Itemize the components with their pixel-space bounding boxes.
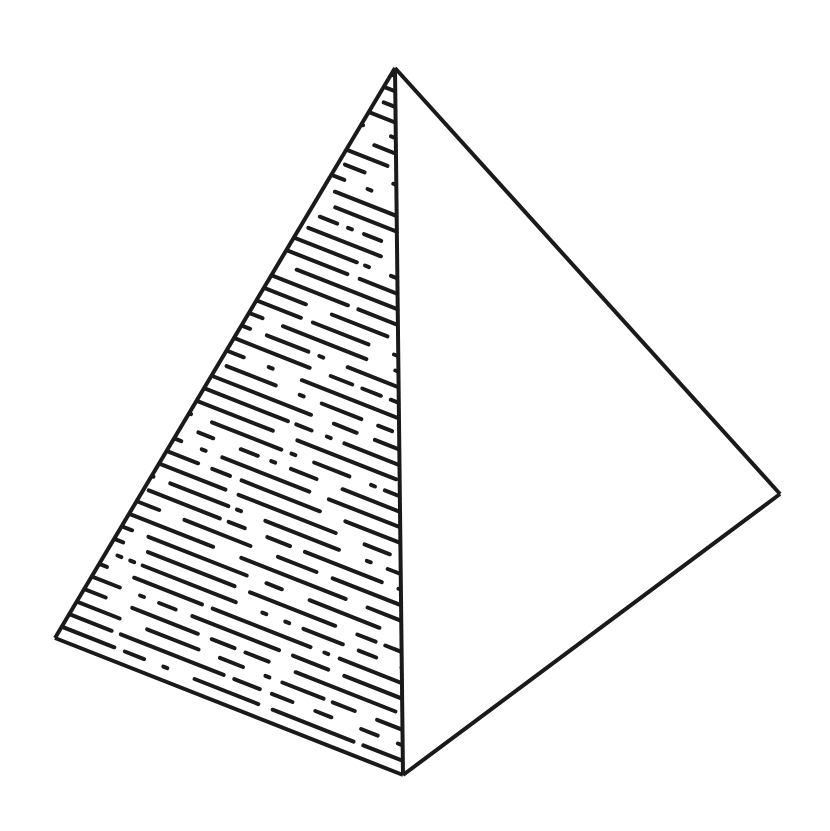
pyramid-diagram (0, 0, 830, 831)
hatch-dash (132, 608, 198, 634)
hatch-dash (223, 101, 248, 111)
hatch-dash (273, 44, 348, 74)
hatch-dash (405, 483, 426, 491)
hatch-dash (397, 170, 467, 197)
hatch-dash (267, 242, 348, 274)
hatch-dash (105, 396, 172, 422)
hatch-dash (132, 251, 221, 286)
hatch-dash (348, 228, 352, 230)
hatch-dash (368, 189, 372, 191)
hatch-dash (278, 557, 317, 572)
hatch-dash (89, 188, 93, 190)
hatch-dash (55, 376, 80, 386)
hatch-dash (312, 105, 330, 112)
hatch-dash (40, 29, 143, 70)
hatch-dash (145, 148, 167, 156)
hatch-dash (335, 192, 417, 224)
hatch-dash (104, 194, 124, 202)
hatch-dash (310, 600, 380, 628)
hatch-dash (67, 458, 71, 460)
hatch-dash (40, 479, 104, 504)
hatch-dash (120, 153, 124, 155)
hatch-dash (68, 428, 105, 443)
hatch-dash (60, 176, 77, 183)
hatch-dash (262, 54, 358, 92)
hatch-dash (234, 679, 259, 689)
hatch-dash (296, 424, 311, 430)
hatch-dash (237, 44, 252, 50)
hatch-dash (319, 356, 323, 358)
hatch-dash (231, 27, 255, 37)
hatch-dash (343, 489, 416, 518)
hatch-dash (212, 639, 235, 648)
hatch-dash (157, 91, 161, 93)
hatch-dash (393, 184, 493, 223)
hatch-dash (404, 265, 408, 267)
hatch-dash (308, 228, 381, 256)
hatch-dash (216, 222, 256, 238)
hatch-dash (40, 587, 58, 594)
hatch-dash (68, 412, 72, 414)
hatch-dash (235, 338, 310, 368)
hatch-dash (348, 367, 429, 399)
hatch-dash (292, 128, 313, 137)
hatch-dash (220, 658, 243, 667)
hatch-dash (97, 331, 101, 333)
hatch-dash (117, 121, 213, 159)
hatch-dash (148, 382, 152, 384)
hatch-dash (151, 352, 155, 354)
hatch-dash (290, 112, 344, 133)
hatch-dash (402, 249, 406, 251)
hatch-dash (222, 457, 309, 491)
edge-apex-right (395, 68, 780, 494)
hatch-dash (40, 76, 44, 78)
hatch-dash (40, 45, 88, 64)
hatch-dash (40, 401, 55, 407)
hatch-dash (267, 335, 309, 351)
hatch-dash (334, 424, 357, 433)
hatch-dash (40, 60, 63, 69)
hatch-dash (255, 21, 259, 23)
hatch-dash (116, 353, 193, 383)
hatch-dash (83, 154, 181, 193)
hatch-dash (40, 432, 65, 442)
hatch-dash (225, 304, 262, 319)
hatch-dash (280, 31, 359, 62)
hatch-dash (40, 463, 114, 492)
hatch-dash (315, 711, 331, 717)
hatch-dash (185, 350, 202, 357)
hatch-dash (140, 208, 144, 210)
hatch-dash (377, 720, 435, 743)
hatch-dash (272, 694, 293, 702)
hatch-dash (362, 389, 381, 396)
hatch-dash (40, 184, 134, 221)
hatch-dash (262, 613, 266, 615)
hatch-dash (351, 43, 404, 64)
hatch-dash (224, 179, 295, 207)
hatch-dash (168, 79, 205, 93)
hatch-dash (143, 566, 236, 603)
hatch-dash (107, 257, 185, 288)
hatch-dash (333, 702, 355, 711)
hatch-dash (357, 635, 375, 642)
hatch-dash (267, 537, 290, 546)
hatch-dash (68, 9, 107, 24)
hatch-dash (364, 234, 381, 241)
hatch-dash (197, 122, 201, 124)
hatch-dash (104, 8, 185, 40)
hatch-dash (40, 541, 107, 567)
hatch-dash (212, 128, 234, 137)
hatch-dash (331, 376, 353, 385)
hatch-dash (196, 292, 216, 300)
hatch-dash (167, 249, 217, 269)
hatch-dash (149, 490, 220, 518)
hatch-dash (72, 73, 93, 81)
hatch-dash (159, 603, 176, 610)
hatch-dash (208, 80, 212, 82)
hatch-dash (320, 217, 338, 224)
hatch-dash (68, 397, 146, 428)
hatch-dash (225, 86, 251, 96)
hatch-dash (192, 616, 279, 650)
hatch-dash (229, 522, 245, 528)
hatch-dash (130, 561, 134, 563)
